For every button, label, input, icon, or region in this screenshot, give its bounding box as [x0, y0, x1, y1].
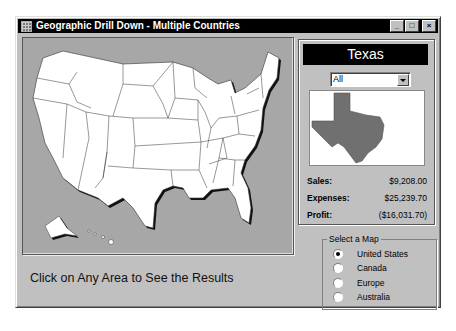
us-map-graphic[interactable] [23, 38, 293, 254]
map-selector-legend: Select a Map [327, 234, 381, 244]
radio-europe[interactable]: Europe [333, 278, 384, 288]
window-title: Geographic Drill Down - Multiple Countri… [36, 19, 390, 33]
metric-expenses: Expenses: $25,239.70 [307, 190, 427, 207]
filter-dropdown-value: All [333, 74, 343, 84]
minimize-button[interactable]: _ [390, 20, 404, 32]
radio-button-icon[interactable] [333, 249, 343, 259]
radio-canada[interactable]: Canada [333, 263, 387, 273]
radio-label: Australia [357, 292, 390, 302]
maximize-button[interactable]: □ [405, 20, 419, 32]
radio-button-icon[interactable] [333, 278, 343, 288]
metric-value: $9,208.00 [389, 173, 427, 190]
us-map[interactable] [22, 37, 294, 255]
radio-button-icon[interactable] [333, 292, 343, 302]
selected-state-title: Texas [303, 44, 428, 65]
radio-australia[interactable]: Australia [333, 292, 390, 302]
metric-value: ($16,031.70) [379, 207, 427, 224]
radio-label: Europe [357, 278, 384, 288]
radio-united-states[interactable]: United States [333, 249, 408, 259]
metric-label: Expenses: [307, 190, 350, 207]
map-selector-group: Select a Map United States Canada Europe… [322, 239, 437, 310]
app-icon [21, 21, 32, 32]
metrics-table: Sales: $9,208.00 Expenses: $25,239.70 Pr… [307, 173, 427, 224]
radio-button-icon[interactable] [333, 263, 343, 273]
state-map-view [309, 90, 425, 166]
state-detail-panel: Texas All Sales: $9,208.00 Expenses: $25… [298, 39, 435, 225]
instruction-text: Click on Any Area to See the Results [30, 271, 234, 285]
filter-dropdown[interactable]: All [330, 72, 411, 87]
chevron-down-icon[interactable] [397, 74, 409, 86]
metric-label: Sales: [307, 173, 332, 190]
app-window: Geographic Drill Down - Multiple Countri… [15, 16, 441, 308]
texas-shape-icon [310, 91, 424, 165]
metric-sales: Sales: $9,208.00 [307, 173, 427, 190]
title-bar[interactable]: Geographic Drill Down - Multiple Countri… [18, 19, 438, 33]
close-button[interactable]: × [422, 20, 436, 32]
metric-label: Profit: [307, 207, 332, 224]
radio-label: United States [357, 249, 408, 259]
metric-profit: Profit: ($16,031.70) [307, 207, 427, 224]
radio-label: Canada [357, 263, 387, 273]
metric-value: $25,239.70 [384, 190, 427, 207]
